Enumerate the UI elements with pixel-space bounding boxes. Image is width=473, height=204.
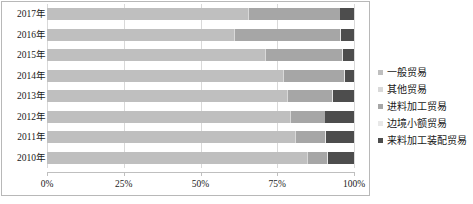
bar-segment bbox=[47, 131, 295, 143]
bar-segment bbox=[47, 111, 290, 123]
bar-row bbox=[47, 70, 354, 82]
bar-row bbox=[47, 29, 354, 41]
bar-segment bbox=[284, 70, 344, 82]
bar-segment bbox=[47, 8, 248, 20]
x-axis-tick bbox=[201, 172, 202, 176]
legend-swatch-icon bbox=[378, 121, 383, 126]
bar-segment bbox=[47, 29, 234, 41]
bar-row bbox=[47, 152, 354, 164]
legend-swatch-icon bbox=[378, 87, 383, 92]
x-axis-tick-label: 0% bbox=[27, 179, 67, 190]
bar-segment bbox=[291, 111, 325, 123]
bar-segment bbox=[325, 111, 354, 123]
bar-segment bbox=[47, 90, 287, 102]
legend-item-label: 边境小额贸易 bbox=[387, 118, 447, 129]
x-axis-tick bbox=[277, 172, 278, 176]
legend-item-label: 其他贸易 bbox=[387, 84, 427, 95]
legend-item[interactable]: 一般贸易 bbox=[378, 64, 472, 81]
legend-item[interactable]: 进料加工贸易 bbox=[378, 98, 472, 115]
y-axis-label: 2012年 bbox=[2, 112, 46, 122]
bar-segment bbox=[266, 49, 342, 61]
legend-swatch-icon bbox=[378, 70, 383, 75]
y-axis-label: 2011年 bbox=[2, 132, 46, 142]
x-axis-tick-label: 75% bbox=[257, 179, 297, 190]
bar-segment bbox=[288, 90, 332, 102]
bar-segment bbox=[308, 152, 327, 164]
legend-item-label: 来料加工装配贸易 bbox=[387, 135, 467, 146]
y-axis-label: 2013年 bbox=[2, 91, 46, 101]
bar-segment bbox=[47, 49, 265, 61]
x-axis-tick-label: 100% bbox=[334, 179, 374, 190]
legend-swatch-icon bbox=[378, 138, 383, 143]
bar-row bbox=[47, 49, 354, 61]
y-axis-category-labels: 2017年2016年2015年2014年2013年2012年2011年2010年 bbox=[0, 0, 46, 168]
bar-segment bbox=[340, 8, 354, 20]
bar-segment bbox=[345, 70, 354, 82]
gridline bbox=[354, 4, 355, 168]
bar-segment bbox=[249, 8, 340, 20]
legend-item-label: 一般贸易 bbox=[387, 67, 427, 78]
bar-segment bbox=[328, 152, 354, 164]
bar-segment bbox=[296, 131, 325, 143]
y-axis-label: 2015年 bbox=[2, 50, 46, 60]
bar-row bbox=[47, 90, 354, 102]
legend-item-label: 进料加工贸易 bbox=[387, 101, 447, 112]
chart-legend: 一般贸易其他贸易进料加工贸易边境小额贸易来料加工装配贸易 bbox=[378, 64, 472, 149]
bar-segment bbox=[47, 70, 283, 82]
x-axis-tick bbox=[47, 172, 48, 176]
bar-segment bbox=[341, 29, 354, 41]
y-axis-label: 2016年 bbox=[2, 30, 46, 40]
bar-row bbox=[47, 131, 354, 143]
legend-swatch-icon bbox=[378, 104, 383, 109]
x-axis-tick-label: 50% bbox=[181, 179, 221, 190]
bar-segment bbox=[235, 29, 340, 41]
y-axis-label: 2017年 bbox=[2, 9, 46, 19]
x-axis-tick-label: 25% bbox=[104, 179, 144, 190]
stacked-bar-chart: 2017年2016年2015年2014年2013年2012年2011年2010年… bbox=[0, 0, 473, 204]
x-axis-tick bbox=[124, 172, 125, 176]
legend-item[interactable]: 来料加工装配贸易 bbox=[378, 132, 472, 149]
bar-segment bbox=[333, 90, 354, 102]
x-axis-tick bbox=[354, 172, 355, 176]
bar-segment bbox=[343, 49, 354, 61]
bar-segment bbox=[47, 152, 307, 164]
y-axis-label: 2010年 bbox=[2, 153, 46, 163]
bar-row bbox=[47, 111, 354, 123]
legend-item[interactable]: 其他贸易 bbox=[378, 81, 472, 98]
legend-item[interactable]: 边境小额贸易 bbox=[378, 115, 472, 132]
plot-area bbox=[47, 4, 354, 168]
bar-segment bbox=[326, 131, 354, 143]
y-axis-label: 2014年 bbox=[2, 71, 46, 81]
bar-row bbox=[47, 8, 354, 20]
